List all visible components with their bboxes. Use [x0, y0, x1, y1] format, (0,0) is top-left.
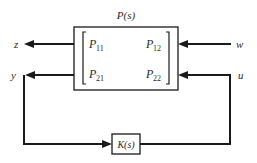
z-arrow-head-icon — [24, 40, 34, 48]
k-input-arrow-head-icon — [102, 140, 112, 148]
plant-label: P(s) — [116, 9, 136, 22]
u-arrow-head-icon — [178, 71, 188, 79]
w-arrow-head-icon — [178, 40, 188, 48]
y-signal-label: y — [10, 69, 16, 81]
u-signal-label: u — [238, 69, 244, 81]
svg-text:12: 12 — [153, 44, 161, 53]
block-diagram: P(s) P 11 P 12 P 21 P 22 z y K(s) u w — [0, 0, 257, 163]
svg-text:22: 22 — [153, 74, 161, 83]
svg-text:11: 11 — [96, 44, 104, 53]
svg-text:21: 21 — [96, 74, 104, 83]
z-signal-label: z — [13, 38, 19, 50]
controller-label: K(s) — [116, 139, 135, 151]
w-signal-label: w — [236, 38, 244, 50]
y-arrow-head-icon — [25, 71, 35, 79]
